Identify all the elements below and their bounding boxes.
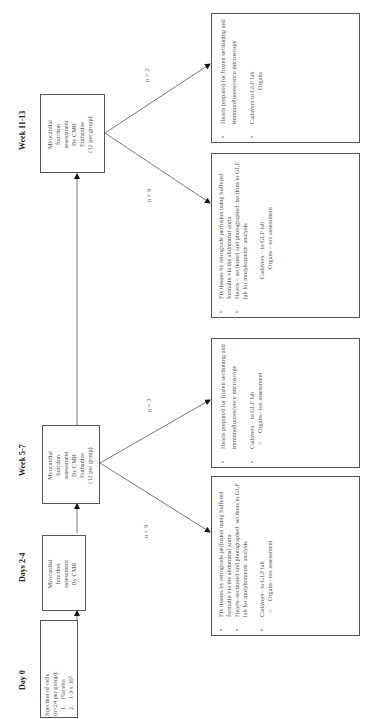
timeline-label-day-0: Day 0 [18, 670, 27, 690]
week-11-13-line-1: Myocardial [46, 95, 54, 174]
sub-organs: Organs – tox assessment [266, 158, 274, 315]
injection-group-1: 1.Placebo [59, 624, 67, 716]
bullet-hearts-sectioned: •Hearts – sectioned and photographed: se… [233, 158, 249, 315]
days-2-4-line-1: Myocardial [46, 536, 54, 612]
bullet-cadavers: •Cadavers– to GLP lab [258, 481, 266, 633]
branch-label-week1113-n3: n = 3 [143, 69, 150, 82]
bullet-fix-tissues: •Fix tissues by retrograde perfusion usi… [217, 158, 233, 315]
sub-organs: ○Organs– tox assessment [266, 481, 274, 633]
week-5-7-box: Myocardial function assessment By CMR Eu… [42, 425, 100, 504]
week-5-7-line-3: assessment [62, 426, 70, 505]
days-2-4-box: Myocardial function assessment By CMR [42, 535, 86, 611]
outcome-box-week57-hearts: •Hearts prepared for frozen sectioning a… [211, 338, 360, 468]
week-11-13-line-5: Euthanize [78, 95, 86, 174]
week-5-7-line-5: Euthanize [78, 426, 86, 505]
cadavers-line: Cadavers – to GLP lab [258, 158, 266, 315]
branch-label-week57-n3: n = 3 [145, 399, 152, 412]
bullet-hearts-frozen: •Hearts prepared for frozen sectioning a… [217, 18, 239, 140]
bullet-fix-tissues: •Fix tissues by retrograde perfusion usi… [217, 481, 233, 633]
bullet-cadavers: •Cadavers – to GLP lab [248, 343, 256, 465]
days-2-4-line-3: assessment [62, 536, 70, 612]
injection-box: Injection of cells (n=24 per group): 1.P… [40, 620, 78, 718]
outcome-box-week1113-fix: •Fix tissues by retrograde perfusion usi… [211, 153, 360, 318]
bullet-cadavers: •Cadavers to GLP lab [248, 18, 256, 140]
days-2-4-line-2: function [54, 536, 62, 612]
week-5-7-line-2: function [54, 426, 62, 505]
outcome-box-week57-fix: •Fix tissues by retrograde perfusion usi… [211, 476, 360, 636]
outcome-box-week1113-hearts: •Hearts prepared for frozen sectioning a… [211, 13, 360, 143]
bullet-hearts-frozen: •Hearts prepared for frozen sectioning a… [217, 343, 239, 465]
injection-subtitle: (n=24 per group): [51, 624, 59, 716]
week-11-13-box: Myocardial function assessment By CMR Eu… [40, 94, 105, 173]
week-11-13-line-6: (12 per group) [86, 95, 94, 174]
week-11-13-line-3: assessment [62, 95, 70, 174]
injection-title: Injection of cells [43, 624, 51, 716]
injection-group-2: 2.1-3 x 10⁵ [67, 624, 75, 716]
days-2-4-line-4: By CMR [70, 536, 78, 612]
sub-organs: ○Organs– tox assessment [256, 343, 264, 465]
week-5-7-line-4: By CMR [70, 426, 78, 505]
week-5-7-line-1: Myocardial [46, 426, 54, 505]
week-11-13-line-2: function [54, 95, 62, 174]
branch-label-week1113-n9: n = 9 [145, 189, 152, 202]
week-5-7-line-6: (12 per group) [86, 426, 94, 505]
timeline-label-days-2-4: Days 2-4 [18, 552, 27, 582]
sub-organs: Organs [256, 18, 264, 140]
week-11-13-line-4: By CMR [70, 95, 78, 174]
branch-label-week57-n9: n = 9 [142, 525, 149, 538]
timeline-label-week-11-13: Week 11-13 [18, 111, 27, 150]
bullet-hearts-sectioned: •Hearts–sectioned and photographed: sect… [233, 481, 249, 633]
timeline-label-week-5-7: Week 5-7 [18, 444, 27, 476]
